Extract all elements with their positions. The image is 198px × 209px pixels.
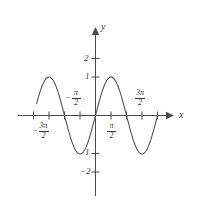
fraction-stack: π 2	[107, 122, 116, 140]
fraction-denominator: 2	[41, 132, 47, 140]
fraction-denominator: 2	[137, 99, 143, 107]
y-axis-label: y	[101, 22, 105, 32]
sine-graph-figure: y x 2 1 1 −2 − 3π 2 − π 2 π 2 3π	[0, 0, 198, 209]
fraction-numerator: 3π	[39, 122, 49, 130]
fraction-numerator: π	[108, 122, 114, 130]
x-axis-label: x	[179, 110, 183, 120]
x-tick-label-3pi-over-2: 3π 2	[134, 89, 145, 107]
fraction-numerator: π	[73, 89, 79, 97]
minus-sign: −	[66, 94, 71, 102]
y-axis-arrowhead	[92, 27, 99, 35]
fraction-denominator: 2	[109, 132, 115, 140]
fraction-stack: 3π 2	[135, 89, 145, 107]
x-tick-label-pi-over-2: π 2	[106, 122, 116, 140]
x-axis-arrowhead	[166, 112, 174, 119]
y-tick-label-neg1: 1	[85, 148, 90, 157]
x-tick-label-neg-3pi-over-2: − 3π 2	[33, 122, 49, 140]
y-tick-label-1: 1	[85, 72, 90, 81]
fraction-denominator: 2	[73, 99, 79, 107]
fraction-numerator: 3π	[135, 89, 145, 97]
fraction-stack: 3π 2	[39, 122, 49, 140]
y-axis	[92, 27, 99, 196]
minus-sign: −	[33, 127, 38, 135]
y-tick-label-neg2: −2	[80, 167, 91, 176]
graph-canvas	[0, 0, 198, 209]
y-tick-label-2: 2	[84, 54, 89, 63]
fraction-stack: π 2	[72, 89, 81, 107]
x-tick-label-neg-pi-over-2: − π 2	[66, 89, 81, 107]
